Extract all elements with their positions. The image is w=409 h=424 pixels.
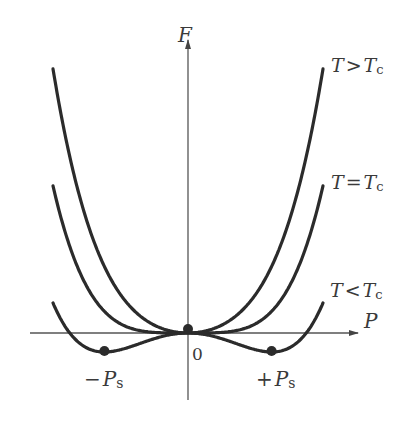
minimum-point-negative — [99, 346, 109, 356]
label-plus-ps: +Ps — [256, 367, 295, 391]
minimum-point-positive — [267, 346, 277, 356]
origin-label: 0 — [192, 344, 203, 364]
x-axis-label: P — [363, 309, 378, 333]
origin-point — [183, 324, 193, 334]
y-axis-label: F — [177, 23, 193, 47]
label-t-greater-tc: T>Tc — [331, 54, 384, 77]
landau-free-energy-diagram: F P 0 T>Tc T=Tc T<Tc −Ps +Ps — [0, 0, 409, 424]
label-t-equal-tc: T=Tc — [331, 171, 384, 194]
label-minus-ps: −Ps — [84, 367, 123, 391]
label-t-less-tc: T<Tc — [330, 279, 383, 302]
